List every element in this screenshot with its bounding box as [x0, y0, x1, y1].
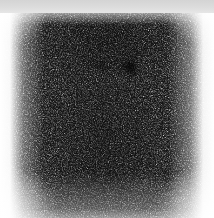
header-strip-shading	[0, 0, 214, 13]
corner-count-falloff	[0, 13, 214, 218]
scan-image-field[interactable]	[0, 13, 214, 218]
scintigraphy-viewer	[0, 0, 214, 218]
